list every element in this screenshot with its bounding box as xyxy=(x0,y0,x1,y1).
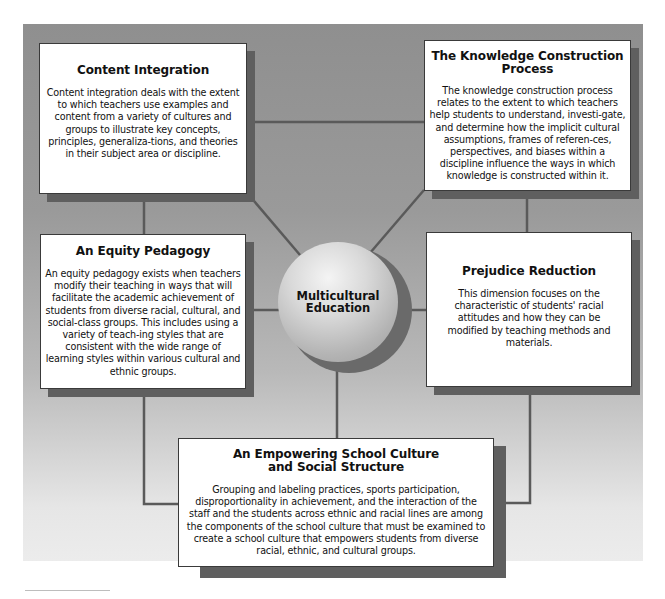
prejudice-reduction-title: Prejudice Reduction xyxy=(441,264,617,278)
content-integration-box: Content Integration Content integration … xyxy=(39,43,247,194)
equity-pedagogy-body: An equity pedagogy exists when teachers … xyxy=(45,268,241,378)
knowledge-construction-title: The Knowledge Construction Process xyxy=(429,50,626,76)
center-circle: Multicultural Education xyxy=(278,242,398,362)
knowledge-construction-body: The knowledge construction process relat… xyxy=(429,85,626,183)
empowering-school-culture-title: An Empowering School Culture and Social … xyxy=(185,448,487,474)
knowledge-construction-box: The Knowledge Construction Process The k… xyxy=(424,40,631,191)
center-label: Multicultural Education xyxy=(296,290,379,314)
equity-pedagogy-box: An Equity Pedagogy An equity pedagogy ex… xyxy=(40,234,246,389)
empowering-school-culture-body: Grouping and labeling practices, sports … xyxy=(185,484,487,557)
prejudice-reduction-box: Prejudice Reduction This dimension focus… xyxy=(426,232,632,387)
empowering-school-culture-box: An Empowering School Culture and Social … xyxy=(178,438,494,567)
equity-pedagogy-title: An Equity Pedagogy xyxy=(45,244,241,258)
prejudice-reduction-body: This dimension focuses on the characteri… xyxy=(441,288,617,349)
footer-rule xyxy=(25,590,110,591)
center-label-line2: Education xyxy=(306,301,370,315)
content-integration-title: Content Integration xyxy=(46,63,240,77)
content-integration-body: Content integration deals with the exten… xyxy=(46,87,240,160)
